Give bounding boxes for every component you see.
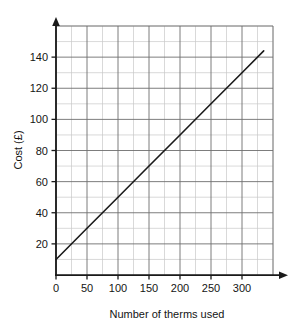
y-axis-title: Cost (£) <box>12 130 24 169</box>
y-tick-label: 20 <box>36 238 48 250</box>
y-axis-tick-labels: 20406080100120140 <box>30 51 48 250</box>
y-tick-label: 100 <box>30 113 48 125</box>
y-tick-label: 120 <box>30 82 48 94</box>
y-tick-label: 40 <box>36 207 48 219</box>
x-tick-label: 0 <box>53 282 59 294</box>
y-tick-label: 80 <box>36 145 48 157</box>
y-axis-arrow-up-icon <box>52 17 60 26</box>
x-axis-title: Number of therms used <box>110 308 225 320</box>
y-tick-label: 140 <box>30 51 48 63</box>
x-tick-label: 250 <box>202 282 220 294</box>
gas-cost-line-chart: 20406080100120140 050100150200250300 Num… <box>0 0 294 329</box>
x-tick-label: 300 <box>233 282 251 294</box>
x-axis-arrow-right-icon <box>279 271 288 279</box>
y-tick-label: 60 <box>36 176 48 188</box>
x-tick-label: 200 <box>171 282 189 294</box>
x-tick-label: 150 <box>140 282 158 294</box>
x-axis-tick-labels: 050100150200250300 <box>53 282 251 294</box>
chart-canvas: 20406080100120140 050100150200250300 Num… <box>0 0 294 329</box>
x-tick-label: 100 <box>109 282 127 294</box>
x-tick-label: 50 <box>81 282 93 294</box>
